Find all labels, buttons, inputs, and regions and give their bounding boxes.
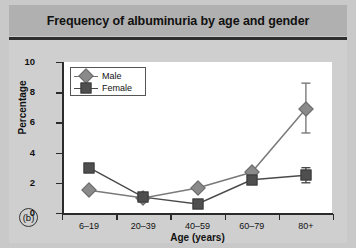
legend-male-label: Male: [102, 71, 122, 81]
chart-title-band: Frequency of albuminuria by age and gend…: [9, 5, 347, 36]
data-point-female-2: [192, 198, 203, 209]
legend-item-male: Male: [74, 70, 142, 82]
legend-female-label: Female: [102, 83, 132, 93]
page-title: Frequency of albuminuria by age and gend…: [47, 14, 310, 28]
legend-female-line: [74, 83, 98, 94]
legend: Male Female: [70, 67, 146, 96]
data-point-female-1: [138, 192, 149, 203]
figure-panel: Frequency of albuminuria by age and gend…: [0, 0, 356, 248]
legend-male-line: [74, 71, 98, 82]
chart-body: Percentage Age (years) 0 2 4 6 8 10 6–19…: [9, 40, 347, 243]
legend-item-female: Female: [74, 82, 142, 94]
data-point-female-4: [300, 170, 311, 181]
data-point-female-3: [246, 174, 257, 185]
data-point-female-0: [84, 162, 95, 173]
panel-label: (b): [19, 208, 38, 227]
series-plot: [9, 40, 347, 243]
